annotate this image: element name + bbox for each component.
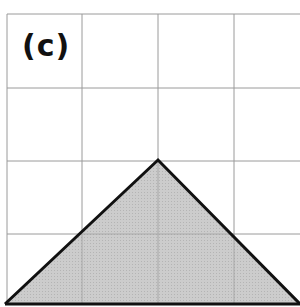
triangle-shape	[5, 160, 300, 304]
figure-label: (c)	[22, 28, 70, 63]
